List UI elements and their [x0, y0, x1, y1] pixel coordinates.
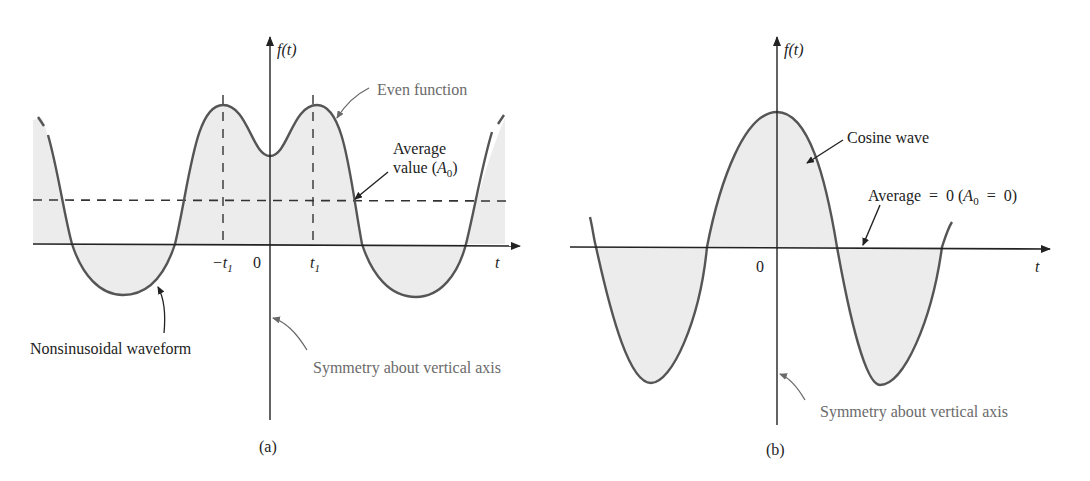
panel-b: f(t) t 0 Cosine wave Average = 0 (A0 = 0… — [570, 37, 1050, 459]
figure-canvas: f(t) t −t1 0 t1 Even function Average va… — [0, 0, 1090, 481]
even-function-arrow — [337, 88, 369, 118]
caption-b: (b) — [766, 441, 785, 459]
symmetry-label-a: Symmetry about vertical axis — [313, 359, 501, 377]
zero-label-b: 0 — [756, 258, 764, 275]
f-of-t-label-a: f(t) — [277, 41, 297, 59]
waveform-a-fill-right — [466, 118, 505, 244]
symmetry-label-b: Symmetry about vertical axis — [820, 403, 1008, 421]
waveform-a-fill-negative-right — [362, 244, 466, 297]
nonsinusoidal-waveform-label: Nonsinusoidal waveform — [30, 340, 192, 357]
average-value-label-line2: value (A0) — [393, 159, 458, 179]
t-label-a: t — [495, 254, 500, 271]
neg-t1-label: −t1 — [212, 254, 233, 274]
t1-label: t1 — [310, 254, 320, 274]
average-value-arrow — [355, 172, 388, 199]
caption-a: (a) — [259, 438, 277, 456]
symmetry-arrow-b — [780, 374, 805, 400]
waveform-a-fill — [33, 118, 72, 244]
average-value-label-line1: Average — [393, 140, 446, 158]
cosine-fill-center — [707, 112, 837, 247]
zero-label-a: 0 — [253, 254, 261, 271]
even-function-label: Even function — [377, 81, 467, 98]
waveform-a-fill-negative-left — [72, 244, 175, 295]
f-of-t-label-b: f(t) — [784, 41, 804, 59]
nonsinusoidal-arrow — [158, 287, 165, 333]
average-zero-label: Average = 0 (A0 = 0) — [868, 187, 1017, 207]
cosine-wave-label: Cosine wave — [847, 129, 929, 146]
average-zero-arrow — [863, 205, 880, 245]
panel-a: f(t) t −t1 0 t1 Even function Average va… — [30, 37, 520, 456]
symmetry-arrow-a — [273, 318, 307, 350]
t-label-b: t — [1035, 258, 1040, 275]
